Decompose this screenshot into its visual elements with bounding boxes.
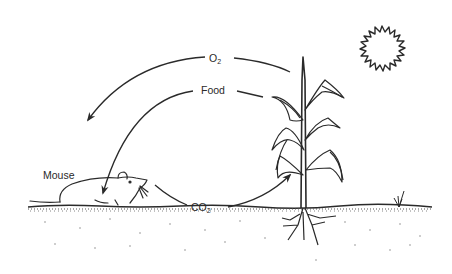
photosynthesis-respiration-diagram: O2 Food CO2 Mouse (0, 0, 452, 274)
food-label: Food (201, 85, 225, 96)
carbon-dioxide-flow-arrow (155, 175, 290, 207)
sun-icon (360, 26, 405, 71)
oxygen-flow-arrow (88, 57, 290, 120)
mouse-label: Mouse (43, 170, 75, 181)
diagram-drawing (0, 0, 452, 274)
oxygen-label: O2 (209, 53, 221, 65)
ground (28, 204, 432, 260)
carbon-dioxide-label: CO2 (191, 202, 211, 214)
plant-icon (272, 57, 344, 245)
